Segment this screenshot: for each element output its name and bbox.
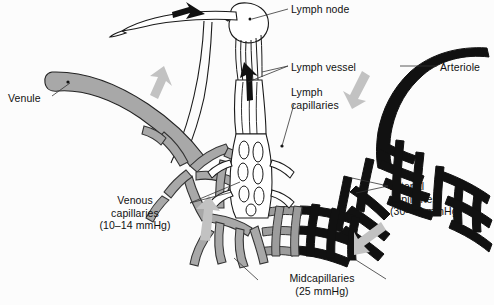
venule-anchor-dot: [66, 80, 69, 83]
lymph-node-anchor-dot: [249, 18, 252, 21]
figure-canvas: .ol{stroke:#1a1a1a;stroke-width:1.1;} .a…: [0, 0, 494, 305]
label-midcapillaries: Midcapillaries (25 mmHg): [262, 272, 382, 297]
label-arteriole: Arteriole: [440, 61, 480, 74]
label-lymph-vessel: Lymph vessel: [291, 61, 356, 74]
microcirculation-diagram: .ol{stroke:#1a1a1a;stroke-width:1.1;} .a…: [0, 0, 494, 305]
label-lymph-capillaries: Lymph capillaries: [291, 86, 339, 111]
label-lymph-node: Lymph node: [291, 3, 349, 16]
midcapillary-network: [258, 204, 360, 267]
arterial-inflow-arrow-upper: [343, 71, 370, 109]
label-venous-capillaries: Venous capillaries (10–14 mmHg): [82, 194, 188, 232]
label-venule: Venule: [8, 92, 41, 105]
lymph-node: [208, 3, 268, 43]
venous-return-arrow-upper: [150, 66, 172, 99]
label-arterial-capillaries: Arterial capillaries (30–40 mmHg): [390, 180, 461, 218]
